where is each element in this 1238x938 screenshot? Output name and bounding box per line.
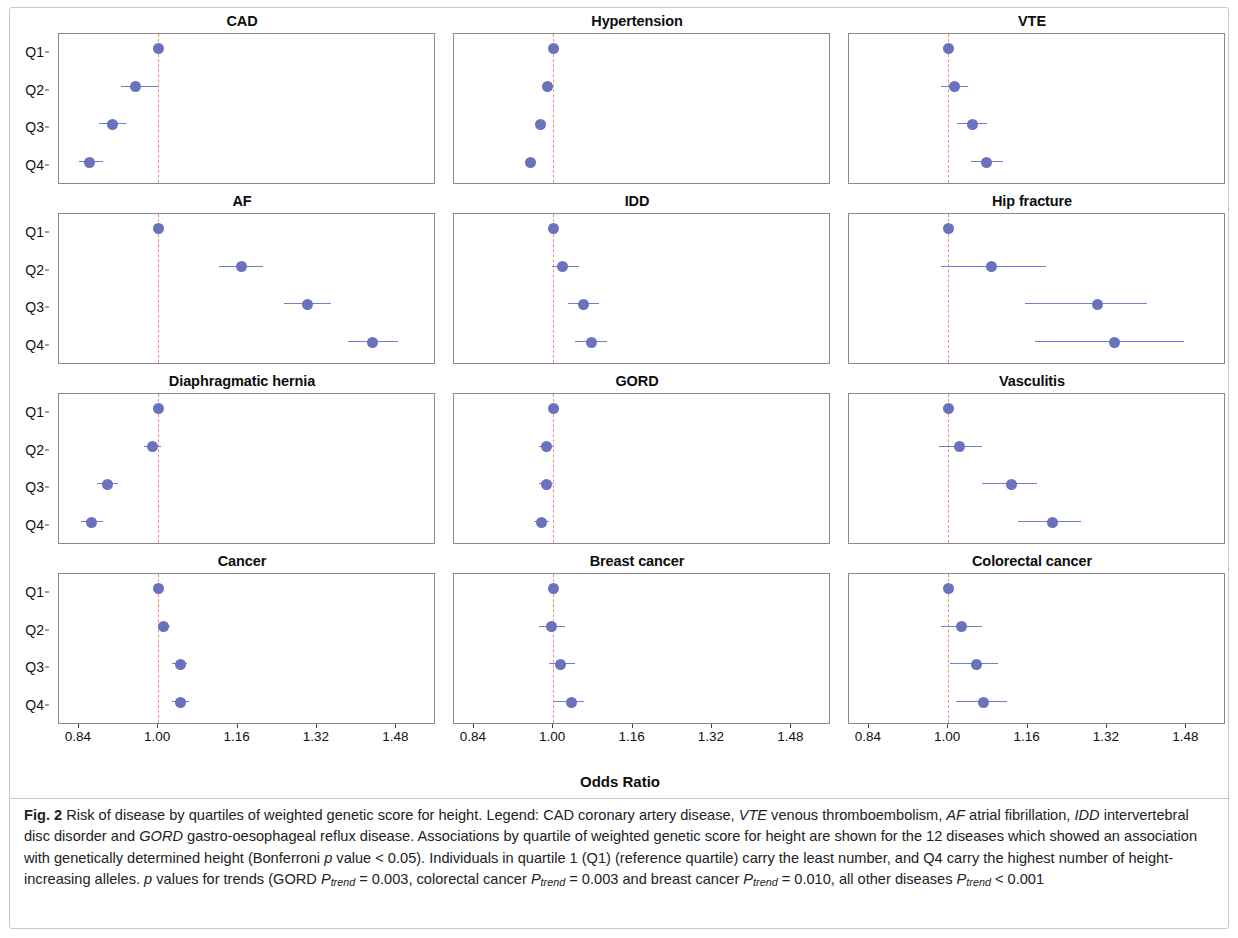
y-axis-label: Q2 <box>25 622 44 638</box>
odds-ratio-point <box>546 621 557 632</box>
forest-panel: Hypertension <box>444 12 830 192</box>
plot-area <box>453 213 830 364</box>
y-axis-tick <box>45 269 49 270</box>
x-axis-tick-label: 1.48 <box>777 729 803 744</box>
odds-ratio-point <box>236 261 247 272</box>
caption-body: Risk of disease by quartiles of weighted… <box>24 807 1197 887</box>
odds-ratio-point <box>557 261 568 272</box>
forest-panel: VTE <box>839 12 1225 192</box>
reference-line <box>553 34 554 183</box>
odds-ratio-point <box>107 119 118 130</box>
forest-panel: Colorectal cancer0.841.001.161.321.48 <box>839 552 1225 732</box>
panel-title: Colorectal cancer <box>839 552 1225 570</box>
forest-panel: CADQ1Q2Q3Q4 <box>49 12 435 192</box>
reference-line <box>158 214 159 363</box>
panel-grid: CADQ1Q2Q3Q4HypertensionVTEAFQ1Q2Q3Q4IDDH… <box>10 12 1230 772</box>
odds-ratio-point <box>586 337 597 348</box>
x-axis-tick-label: 1.32 <box>1093 729 1119 744</box>
x-axis-tick <box>473 724 474 728</box>
odds-ratio-point <box>367 337 378 348</box>
reference-line <box>948 394 949 543</box>
odds-ratio-point <box>943 43 954 54</box>
odds-ratio-point <box>536 517 547 528</box>
reference-line <box>158 574 159 723</box>
panel-row: AFQ1Q2Q3Q4IDDHip fracture <box>10 192 1230 372</box>
plot-area <box>58 33 435 184</box>
panel-title: Hypertension <box>444 12 830 30</box>
plot-area <box>58 393 435 544</box>
x-axis-tick-label: 1.32 <box>303 729 329 744</box>
reference-line <box>158 34 159 183</box>
caption-label: Fig. 2 <box>24 807 62 823</box>
odds-ratio-point <box>1092 299 1103 310</box>
panel-title: Hip fracture <box>839 192 1225 210</box>
odds-ratio-point <box>548 43 559 54</box>
forest-panel: Vasculitis <box>839 372 1225 552</box>
panel-title: Diaphragmatic hernia <box>49 372 435 390</box>
odds-ratio-point <box>548 223 559 234</box>
odds-ratio-point <box>578 299 589 310</box>
forest-panel: IDD <box>444 192 830 372</box>
x-axis-tick <box>1185 724 1186 728</box>
odds-ratio-point <box>153 403 164 414</box>
reference-line <box>553 214 554 363</box>
x-axis-title: Odds Ratio <box>10 773 1230 790</box>
y-axis-label: Q3 <box>25 659 44 675</box>
x-axis-tick <box>237 724 238 728</box>
forest-panel: GORD <box>444 372 830 552</box>
plot-area <box>453 573 830 724</box>
y-axis-tick <box>45 487 49 488</box>
odds-ratio-point <box>541 479 552 490</box>
plot-area <box>848 573 1225 724</box>
odds-ratio-point <box>967 119 978 130</box>
odds-ratio-point <box>84 157 95 168</box>
y-axis-label: Q2 <box>25 442 44 458</box>
odds-ratio-point <box>1006 479 1017 490</box>
x-axis: 0.841.001.161.321.48 <box>58 724 435 752</box>
odds-ratio-point <box>535 119 546 130</box>
y-axis-tick <box>45 449 49 450</box>
y-axis-tick <box>45 89 49 90</box>
x-axis-tick-label: 1.00 <box>144 729 170 744</box>
odds-ratio-point <box>130 81 141 92</box>
figure-card: CADQ1Q2Q3Q4HypertensionVTEAFQ1Q2Q3Q4IDDH… <box>9 7 1229 929</box>
x-axis-tick <box>1027 724 1028 728</box>
odds-ratio-point <box>548 403 559 414</box>
odds-ratio-point <box>153 583 164 594</box>
x-axis: 0.841.001.161.321.48 <box>453 724 830 752</box>
y-axis-label: Q3 <box>25 119 44 135</box>
x-axis-tick-label: 0.84 <box>460 729 486 744</box>
odds-ratio-point <box>542 81 553 92</box>
x-axis-tick-label: 1.16 <box>223 729 249 744</box>
odds-ratio-point <box>566 697 577 708</box>
x-axis-tick <box>157 724 158 728</box>
x-axis-tick <box>552 724 553 728</box>
forest-panel: Diaphragmatic herniaQ1Q2Q3Q4 <box>49 372 435 552</box>
plot-area <box>848 393 1225 544</box>
odds-ratio-point <box>971 659 982 670</box>
panel-title: Vasculitis <box>839 372 1225 390</box>
y-axis: Q1Q2Q3Q4 <box>12 573 49 724</box>
odds-ratio-point <box>1109 337 1120 348</box>
plot-area <box>58 573 435 724</box>
y-axis-label: Q2 <box>25 82 44 98</box>
x-axis-tick-label: 0.84 <box>855 729 881 744</box>
x-axis-tick-label: 1.16 <box>618 729 644 744</box>
y-axis-label: Q2 <box>25 262 44 278</box>
y-axis-label: Q1 <box>25 224 44 240</box>
y-axis-tick <box>45 705 49 706</box>
odds-ratio-point <box>943 583 954 594</box>
x-axis-tick-label: 1.00 <box>539 729 565 744</box>
x-axis-tick-label: 1.16 <box>1013 729 1039 744</box>
x-axis-tick <box>632 724 633 728</box>
odds-ratio-point <box>147 441 158 452</box>
y-axis-label: Q1 <box>25 404 44 420</box>
x-axis-tick <box>316 724 317 728</box>
plot-area <box>453 393 830 544</box>
y-axis-label: Q3 <box>25 479 44 495</box>
x-axis-tick <box>947 724 948 728</box>
odds-ratio-point <box>102 479 113 490</box>
y-axis-tick <box>45 307 49 308</box>
plot-area <box>453 33 830 184</box>
odds-ratio-point <box>153 223 164 234</box>
